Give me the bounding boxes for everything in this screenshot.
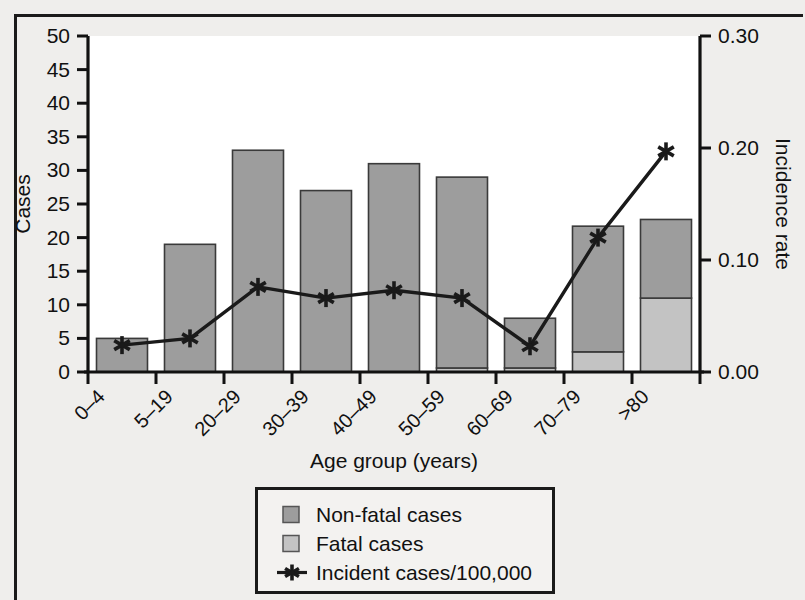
- y-axis-tick-label: 45: [47, 58, 70, 81]
- star-marker-core: [663, 149, 668, 154]
- star-marker-core: [255, 284, 260, 289]
- legend-item-label: Incident cases/100,000: [316, 561, 532, 584]
- y2-axis-tick-label: 0.30: [718, 24, 759, 47]
- y-axis-tick-label: 10: [47, 293, 70, 316]
- y-axis-tick-label: 30: [47, 158, 70, 181]
- legend-fatal-swatch: [283, 536, 299, 552]
- star-marker-core: [391, 288, 396, 293]
- star-marker-core: [595, 235, 600, 240]
- star-marker-core: [290, 570, 295, 575]
- y-axis-tick-label: 35: [47, 125, 70, 148]
- bar-segment: [233, 150, 284, 372]
- x-axis-category-label: 20–29: [190, 385, 245, 440]
- star-marker-core: [323, 295, 328, 300]
- legend-content: Non-fatal casesFatal casesIncident cases…: [258, 490, 558, 597]
- legend-non-fatal-swatch: [283, 507, 299, 523]
- legend-item: Non-fatal cases: [283, 503, 462, 526]
- star-marker-core: [459, 295, 464, 300]
- y2-axis-tick-label: 0.10: [718, 248, 759, 271]
- bar-segment: [641, 298, 692, 372]
- y-axis-title: Cases: [11, 174, 34, 234]
- chart-legend: Non-fatal casesFatal casesIncident cases…: [255, 487, 555, 594]
- bar-segment: [573, 352, 624, 372]
- y-axis-tick-label: 25: [47, 192, 70, 215]
- star-marker-core: [119, 342, 124, 347]
- x-axis-category-label: 60–69: [462, 385, 517, 440]
- x-axis-category-label: 5–19: [130, 385, 177, 432]
- bar-segment: [301, 191, 352, 372]
- y-axis-tick-label: 40: [47, 91, 70, 114]
- y-axis-tick-label: 5: [58, 326, 70, 349]
- legend-item-label: Fatal cases: [316, 532, 423, 555]
- y-axis-tick-label: 20: [47, 226, 70, 249]
- bar-segment: [369, 164, 420, 372]
- bar-segment: [641, 219, 692, 298]
- bar-segment: [437, 177, 488, 368]
- y-axis-tick-label: 15: [47, 259, 70, 282]
- x-axis-category-label: 70–79: [530, 385, 585, 440]
- y2-axis-title: Incidence rate: [772, 138, 795, 270]
- x-axis-category-label: 30–39: [258, 385, 313, 440]
- x-axis-category-label: 0–4: [70, 385, 109, 424]
- y2-axis-tick-label: 0.00: [718, 360, 759, 383]
- figure: 051015202530354045500.000.100.200.300–45…: [0, 0, 805, 600]
- y2-axis-tick-label: 0.20: [718, 136, 759, 159]
- legend-item: Fatal cases: [283, 532, 423, 555]
- legend-item: Incident cases/100,000: [277, 561, 532, 584]
- legend-item-label: Non-fatal cases: [316, 503, 462, 526]
- x-axis-title: Age group (years): [310, 449, 478, 472]
- y-axis-tick-label: 50: [47, 24, 70, 47]
- bar-segment: [165, 244, 216, 372]
- x-axis-category-label: >80: [613, 385, 653, 425]
- x-axis-category-label: 40–49: [326, 385, 381, 440]
- star-marker-core: [187, 336, 192, 341]
- y-axis-tick-label: 0: [58, 360, 70, 383]
- x-axis-category-label: 50–59: [394, 385, 449, 440]
- star-marker-core: [527, 344, 532, 349]
